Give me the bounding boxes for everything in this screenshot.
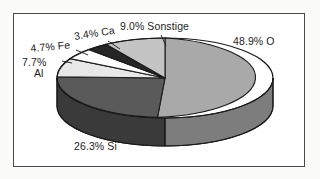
slice-label-al-element: Al: [34, 68, 46, 79]
pie-chart-figure: 48.9% O 26.3% Si 9.0% Sonstige 3.4% Ca 4…: [0, 0, 320, 179]
slice-label-o: 48.9% O: [233, 36, 275, 47]
slice-label-si: 26.3% Si: [74, 141, 117, 152]
slice-label-al: 7.7% Al: [22, 57, 46, 79]
slice-label-sonstige: 9.0% Sonstige: [120, 21, 189, 32]
